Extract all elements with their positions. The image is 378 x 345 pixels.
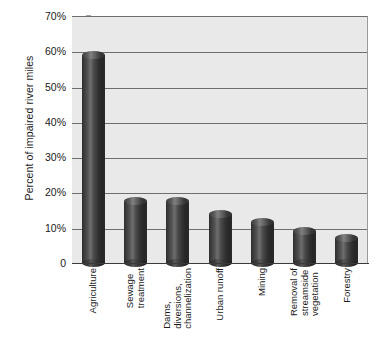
y-axis-tick-labels: 70%60%50%40%30%20%10%0 — [20, 0, 66, 345]
bar — [166, 201, 189, 263]
x-axis-label-slot: Forestry — [330, 266, 364, 345]
x-axis-label-slot: Dams,diversions,channelization — [161, 266, 195, 345]
y-axis-tick-label: 40% — [22, 117, 66, 128]
y-axis-tick-label: 10% — [22, 222, 66, 233]
x-axis-label: Sewagetreatment — [125, 268, 146, 308]
x-axis-label: Urban runoff — [215, 268, 226, 321]
bar-top-cap — [293, 227, 316, 235]
x-axis-label-slot: Mining — [245, 266, 279, 345]
bar — [209, 214, 232, 263]
y-axis-tick-label: 20% — [22, 187, 66, 198]
x-axis-label: Agriculture — [88, 268, 99, 313]
bar-top-cap — [124, 197, 147, 205]
y-axis-tick-label: 70% — [22, 11, 66, 22]
bar — [251, 222, 274, 263]
y-axis-tick-label: 60% — [22, 46, 66, 57]
x-axis-label: Removal ofstreamsidevegetation — [289, 268, 321, 316]
bar — [124, 201, 147, 263]
x-axis-label: Mining — [257, 268, 268, 296]
bar-top-cap — [82, 51, 105, 59]
y-axis-tick-label: 50% — [22, 81, 66, 92]
bar-chart: Percent of impaired river miles 70%60%50… — [0, 0, 378, 345]
x-axis-category-labels: AgricultureSewagetreatmentDams,diversion… — [72, 266, 368, 345]
bar-top-cap — [251, 218, 274, 226]
bar-top-cap — [335, 234, 358, 242]
x-axis-label-slot: Sewagetreatment — [118, 266, 152, 345]
bar — [82, 55, 105, 263]
x-axis-label: Forestry — [342, 268, 353, 303]
y-axis-tick-label: 0 — [22, 258, 66, 269]
y-axis-tick-label: 30% — [22, 152, 66, 163]
bar-top-cap — [166, 197, 189, 205]
x-axis-label: Dams,diversions,channelization — [162, 268, 194, 329]
bars-layer — [72, 16, 368, 263]
x-axis-label-slot: Agriculture — [76, 266, 110, 345]
bar-top-cap — [209, 210, 232, 218]
bar — [335, 238, 358, 263]
x-axis-line — [72, 263, 369, 264]
bar — [293, 231, 316, 263]
x-axis-label-slot: Urban runoff — [203, 266, 237, 345]
x-axis-label-slot: Removal ofstreamsidevegetation — [288, 266, 322, 345]
